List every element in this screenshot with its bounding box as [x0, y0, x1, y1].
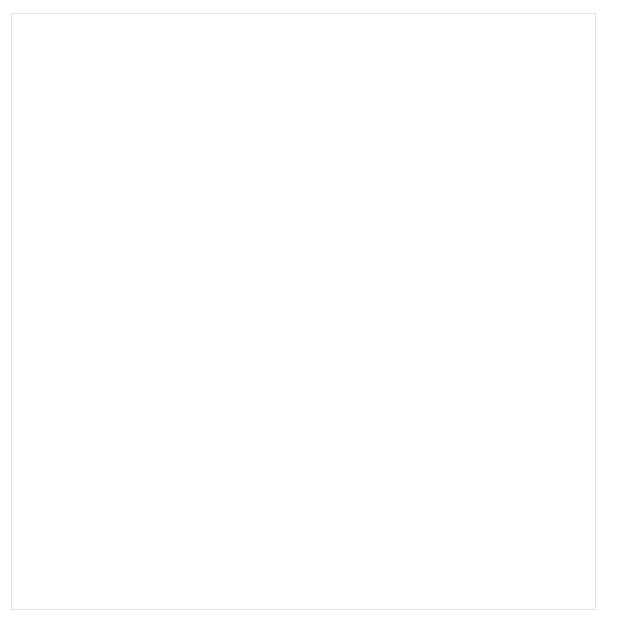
figure-card — [11, 13, 596, 610]
cropped-caption-strip — [0, 0, 619, 12]
screenshot-root — [0, 0, 619, 626]
